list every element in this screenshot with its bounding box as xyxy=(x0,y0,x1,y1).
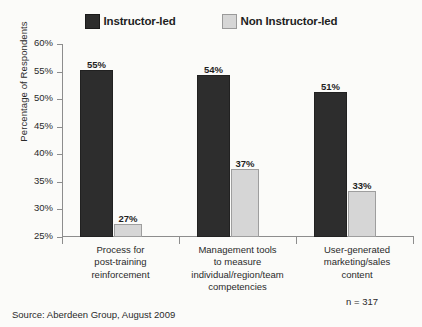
legend-label-non-instructor-led: Non Instructor-led xyxy=(241,15,338,27)
bar-non-instructor-led-1[interactable]: 27% xyxy=(114,224,142,237)
legend-swatch-non-instructor-led xyxy=(222,14,237,29)
group-divider-2 xyxy=(296,237,297,244)
bar-value-instructor-led-3: 51% xyxy=(321,81,340,92)
sample-size-note: n = 317 xyxy=(346,296,378,307)
bar-value-instructor-led-1: 55% xyxy=(87,59,106,70)
x-category-label-2-line-1: Management tools xyxy=(175,244,300,256)
x-category-label-1-line-3: reinforcement xyxy=(62,269,179,281)
y-tick-label-35: 35% xyxy=(34,175,53,186)
bar-group-3: 51% 33% xyxy=(296,44,413,237)
y-tick-label-55: 55% xyxy=(34,65,53,76)
x-category-label-3-line-3: content xyxy=(300,269,414,281)
group-divider-left xyxy=(62,237,63,244)
y-tick-label-50: 50% xyxy=(34,92,53,103)
plot-area: 60% 55% 50% 45% 40% 35% 30% 25% xyxy=(62,44,414,237)
chart-legend: Instructor-led Non Instructor-led xyxy=(0,10,422,32)
bar-instructor-led-2[interactable]: 54% xyxy=(197,75,230,237)
legend-item-non-instructor-led: Non Instructor-led xyxy=(222,14,338,29)
group-divider-1 xyxy=(179,237,180,244)
x-category-label-1-line-1: Process for xyxy=(62,244,179,256)
x-category-label-3-line-2: marketing/sales xyxy=(300,256,414,268)
x-category-label-2-line-4: competencies xyxy=(175,281,300,293)
y-tick-label-45: 45% xyxy=(34,120,53,131)
bar-value-non-instructor-led-2: 37% xyxy=(235,158,254,169)
x-category-label-1-line-2: post-training xyxy=(62,256,179,268)
bar-group-1: 55% 27% xyxy=(62,44,179,237)
bar-value-non-instructor-led-1: 27% xyxy=(118,213,137,224)
bar-non-instructor-led-2[interactable]: 37% xyxy=(231,169,259,237)
y-tick-label-30: 30% xyxy=(34,202,53,213)
legend-label-instructor-led: Instructor-led xyxy=(104,15,176,27)
x-category-label-2-line-3: individual/region/team xyxy=(175,269,300,281)
x-category-label-2: Management tools to measure individual/r… xyxy=(175,244,300,293)
bar-instructor-led-1[interactable]: 55% xyxy=(80,70,113,237)
legend-item-instructor-led: Instructor-led xyxy=(85,14,176,29)
bar-value-instructor-led-2: 54% xyxy=(204,64,223,75)
x-category-label-3: User-generated marketing/sales content xyxy=(300,244,414,281)
bar-group-2: 54% 37% xyxy=(179,44,296,237)
bar-instructor-led-3[interactable]: 51% xyxy=(314,92,347,237)
y-axis-title: Percentage of Respondents xyxy=(18,0,29,177)
legend-swatch-instructor-led xyxy=(85,14,100,29)
y-tick-label-25: 25% xyxy=(34,230,53,241)
group-divider-right xyxy=(413,237,414,244)
bar-value-non-instructor-led-3: 33% xyxy=(352,180,371,191)
x-category-label-3-line-1: User-generated xyxy=(300,244,414,256)
y-tick-label-60: 60% xyxy=(34,37,53,48)
bar-chart-figure: Instructor-led Non Instructor-led Percen… xyxy=(0,0,422,327)
y-tick-label-40: 40% xyxy=(34,147,53,158)
bar-non-instructor-led-3[interactable]: 33% xyxy=(348,191,376,237)
x-axis-category-labels: Process for post-training reinforcement … xyxy=(62,244,414,296)
x-category-label-1: Process for post-training reinforcement xyxy=(62,244,179,281)
x-category-label-2-line-2: to measure xyxy=(175,256,300,268)
source-note: Source: Aberdeen Group, August 2009 xyxy=(12,309,175,320)
